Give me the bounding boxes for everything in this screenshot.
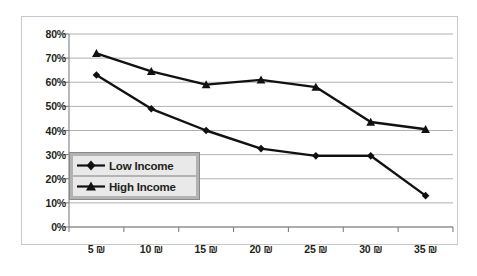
- y-axis-tick-label: 80%: [22, 29, 66, 39]
- y-axis-tick-label: 30%: [22, 150, 66, 160]
- x-axis-ticks: [69, 227, 453, 232]
- y-axis-tick-label: 0%: [22, 222, 66, 232]
- series-line: [96, 53, 425, 129]
- x-axis-labels: 5 ₪10 ₪15 ₪20 ₪25 ₪30 ₪35 ₪: [0, 243, 477, 263]
- data-point-diamond: [257, 145, 265, 153]
- data-point-diamond: [312, 152, 320, 160]
- legend-item-low-income: Low Income: [73, 156, 196, 175]
- data-point-triangle: [92, 49, 101, 57]
- y-axis-tick-label: 70%: [22, 53, 66, 63]
- legend-label-high-income: High Income: [109, 181, 176, 193]
- y-axis-tick-label: 60%: [22, 77, 66, 87]
- y-axis-tick-label: 50%: [22, 101, 66, 111]
- x-axis-tick-label: 10 ₪: [140, 243, 163, 255]
- y-axis-labels: 0%10%20%30%40%50%60%70%80%: [22, 0, 66, 276]
- chart-legend: Low Income High Income: [69, 152, 200, 200]
- x-axis-tick-label: 20 ₪: [249, 243, 272, 255]
- plot-area: [0, 0, 477, 276]
- y-axis-tick-label: 40%: [22, 126, 66, 136]
- x-axis-tick-label: 35 ₪: [414, 243, 437, 255]
- legend-item-high-income: High Income: [73, 177, 196, 196]
- x-axis-tick-label: 15 ₪: [195, 243, 218, 255]
- x-axis-tick-label: 5 ₪: [88, 243, 105, 255]
- data-point-diamond: [202, 127, 210, 135]
- x-axis-tick-label: 30 ₪: [359, 243, 382, 255]
- x-axis-tick-label: 25 ₪: [304, 243, 327, 255]
- chart-container: 0%10%20%30%40%50%60%70%80% 5 ₪10 ₪15 ₪20…: [0, 0, 477, 276]
- y-axis-tick-label: 20%: [22, 174, 66, 184]
- legend-label-low-income: Low Income: [109, 160, 173, 172]
- triangle-marker-icon: [73, 177, 109, 196]
- series-high-income: [92, 49, 430, 133]
- y-axis-tick-label: 10%: [22, 198, 66, 208]
- diamond-marker-icon: [73, 156, 109, 175]
